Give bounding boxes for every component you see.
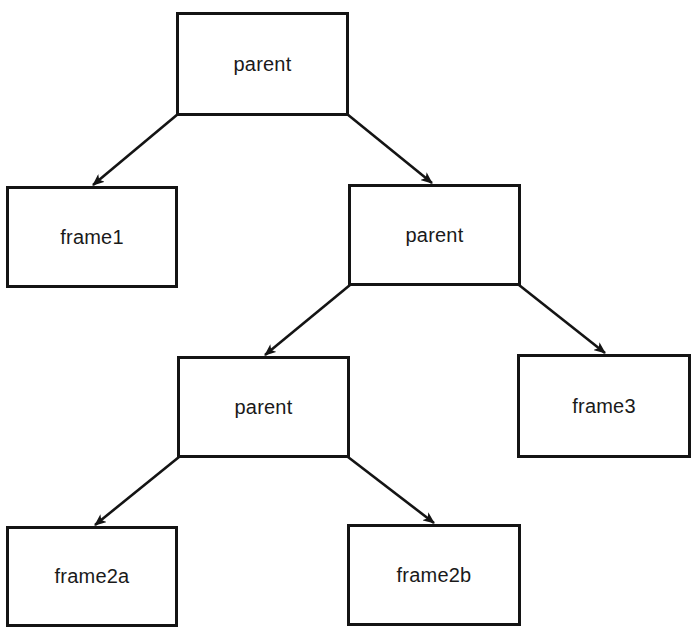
node-label: frame3 bbox=[572, 395, 635, 418]
edge-arrow-parent2-to-frame3 bbox=[519, 285, 605, 353]
node-root-parent: parent bbox=[176, 12, 349, 116]
node-frame2b: frame2b bbox=[347, 524, 521, 626]
node-frame3: frame3 bbox=[517, 354, 691, 458]
edge-arrow-parent3-to-frame2b bbox=[348, 457, 434, 523]
node-label: parent bbox=[406, 224, 464, 247]
node-label: frame1 bbox=[60, 226, 123, 249]
edge-arrow-root-to-parent2 bbox=[347, 114, 432, 183]
node-frame2a: frame2a bbox=[6, 526, 178, 627]
node-parent-level3: parent bbox=[177, 356, 350, 458]
node-label: frame2b bbox=[397, 564, 472, 587]
node-parent-level2: parent bbox=[348, 184, 521, 286]
node-label: parent bbox=[235, 396, 293, 419]
edge-arrow-parent2-to-parent3 bbox=[265, 285, 350, 355]
node-label: parent bbox=[234, 53, 292, 76]
edge-arrow-root-to-frame1 bbox=[93, 114, 178, 185]
edge-arrow-parent3-to-frame2a bbox=[95, 457, 179, 525]
node-label: frame2a bbox=[55, 565, 130, 588]
node-frame1: frame1 bbox=[6, 186, 178, 288]
frame-hierarchy-tree-diagram: parent frame1 parent parent frame3 frame… bbox=[0, 0, 695, 637]
